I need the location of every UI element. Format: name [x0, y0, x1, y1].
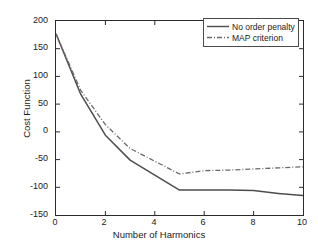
chart-figure: 200 150 100 50 0 -50 -100 -150 0 2 4 6 8…: [0, 0, 318, 250]
y-axis-title: Cost Function: [21, 29, 32, 189]
legend-line-solid-icon: [207, 22, 229, 31]
series-line-dashdot: [56, 34, 303, 174]
legend-item-no-order-penalty: No order penalty: [204, 21, 298, 32]
tick-marks: [56, 21, 303, 215]
x-tick-label: 6: [191, 218, 215, 227]
chart-legend: No order penalty MAP criterion: [203, 18, 299, 47]
legend-label: No order penalty: [232, 22, 295, 32]
y-tick-label: 200: [14, 16, 48, 25]
x-tick-label: 4: [142, 218, 166, 227]
x-tick-label: 0: [43, 218, 67, 227]
x-tick-label: 2: [92, 218, 116, 227]
plot-area: [55, 20, 304, 216]
x-axis-title: Number of Harmonics: [0, 229, 318, 240]
series-layer: [56, 34, 303, 196]
legend-label: MAP criterion: [232, 33, 283, 43]
series-line-solid: [56, 34, 303, 196]
legend-line-dashdot-icon: [207, 33, 229, 42]
legend-item-map-criterion: MAP criterion: [204, 32, 298, 43]
x-tick-label: 8: [241, 218, 265, 227]
x-tick-label: 10: [290, 218, 314, 227]
plot-canvas: [56, 21, 303, 215]
